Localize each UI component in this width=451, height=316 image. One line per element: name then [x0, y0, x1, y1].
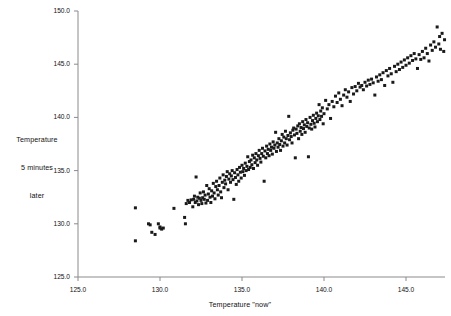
- scatter-point: [282, 145, 285, 148]
- scatter-point: [380, 78, 383, 81]
- scatter-point: [286, 134, 289, 137]
- scatter-point: [423, 56, 426, 59]
- scatter-point: [349, 100, 352, 103]
- scatter-point: [134, 239, 137, 242]
- scatter-point: [162, 227, 165, 230]
- scatter-point: [213, 191, 216, 194]
- y-axis-title-line-2: 5 minutes: [2, 163, 72, 172]
- scatter-point: [434, 46, 437, 49]
- scatter-point: [192, 198, 195, 201]
- scatter-point: [319, 110, 322, 113]
- scatter-point: [298, 122, 301, 125]
- scatter-point: [264, 156, 267, 159]
- scatter-point: [258, 149, 261, 152]
- scatter-point: [202, 190, 205, 193]
- scatter-point: [237, 180, 240, 183]
- scatter-point: [241, 164, 244, 167]
- scatter-point: [203, 198, 206, 201]
- scatter-point: [172, 207, 175, 210]
- scatter-point: [302, 127, 305, 130]
- scatter-point: [309, 123, 312, 126]
- scatter-point: [287, 115, 290, 118]
- scatter-point: [365, 85, 368, 88]
- y-axis-tick-label: 150.0: [44, 7, 70, 14]
- scatter-point: [304, 131, 307, 134]
- scatter-markers: [134, 25, 446, 242]
- scatter-point: [362, 88, 365, 91]
- scatter-point: [218, 177, 221, 180]
- scatter-point: [383, 84, 386, 87]
- scatter-point: [367, 79, 370, 82]
- scatter-point: [200, 202, 203, 205]
- scatter-point: [278, 143, 281, 146]
- scatter-point: [418, 53, 421, 56]
- scatter-point: [229, 181, 232, 184]
- scatter-point: [441, 32, 444, 35]
- scatter-point: [304, 118, 307, 121]
- scatter-point: [315, 112, 318, 115]
- scatter-point: [246, 155, 249, 158]
- scatter-point: [406, 56, 409, 59]
- scatter-point: [382, 71, 385, 74]
- x-axis-tick-label: 135.0: [227, 286, 257, 293]
- scatter-point: [206, 199, 209, 202]
- scatter-point: [271, 153, 274, 156]
- scatter-point: [320, 115, 323, 118]
- scatter-point: [408, 62, 411, 65]
- y-axis-tick-label: 130.0: [44, 220, 70, 227]
- scatter-point: [352, 92, 355, 95]
- x-axis-tick-label: 140.0: [309, 286, 339, 293]
- scatter-point: [368, 83, 371, 86]
- scatter-point: [431, 49, 434, 52]
- scatter-point: [193, 195, 196, 198]
- scatter-point: [274, 131, 277, 134]
- scatter-point: [157, 222, 160, 225]
- scatter-point: [322, 122, 325, 125]
- scatter-point: [327, 103, 330, 106]
- scatter-point: [339, 98, 342, 101]
- scatter-point: [370, 78, 373, 81]
- scatter-point: [377, 80, 380, 83]
- scatter-point: [212, 182, 215, 185]
- scatter-point: [344, 88, 347, 91]
- scatter-point: [336, 101, 339, 104]
- scatter-point: [236, 173, 239, 176]
- scatter-point: [265, 145, 268, 148]
- scatter-point: [256, 164, 259, 167]
- scatter-point: [396, 63, 399, 66]
- scatter-point: [419, 58, 422, 61]
- scatter-point: [439, 48, 442, 51]
- scatter-point: [375, 75, 378, 78]
- scatter-point: [310, 128, 313, 131]
- scatter-point: [309, 116, 312, 119]
- scatter-point: [286, 144, 289, 147]
- scatter-point: [311, 119, 314, 122]
- y-axis-tick-label: 145.0: [44, 60, 70, 67]
- y-axis-ticks: [74, 11, 78, 277]
- scatter-point: [386, 74, 389, 77]
- scatter-point: [230, 174, 233, 177]
- scatter-point: [188, 201, 191, 204]
- scatter-point: [326, 107, 329, 110]
- scatter-point: [432, 40, 435, 43]
- x-axis-tick-label: 145.0: [391, 286, 421, 293]
- scatter-point: [235, 183, 238, 186]
- scatter-point: [205, 184, 208, 187]
- scatter-point: [154, 233, 157, 236]
- scatter-point: [442, 50, 445, 53]
- scatter-point: [215, 180, 218, 183]
- scatter-point: [280, 139, 283, 142]
- scatter-point: [306, 121, 309, 124]
- scatter-point: [184, 222, 187, 225]
- scatter-point: [312, 114, 315, 117]
- scatter-point: [321, 106, 324, 109]
- scatter-point: [411, 59, 414, 62]
- scatter-point: [414, 57, 417, 60]
- scatter-point: [245, 165, 248, 168]
- scatter-point: [354, 85, 357, 88]
- scatter-point: [364, 81, 367, 84]
- scatter-point: [288, 138, 291, 141]
- scatter-point: [227, 178, 230, 181]
- scatter-point: [350, 86, 353, 89]
- scatter-point: [329, 117, 332, 120]
